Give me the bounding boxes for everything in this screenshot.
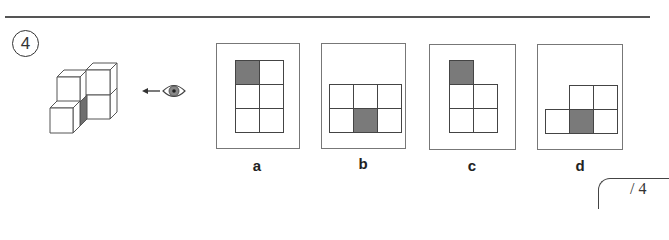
cell — [545, 109, 570, 134]
cell — [329, 84, 354, 109]
cell — [235, 108, 260, 133]
cell — [377, 84, 402, 109]
cube-right-top — [86, 63, 117, 95]
option-b-box[interactable] — [321, 43, 406, 149]
cell — [329, 108, 354, 133]
cell — [377, 108, 402, 133]
cell — [259, 60, 284, 85]
cell — [569, 109, 594, 134]
cube-front-left — [50, 101, 80, 133]
cell — [449, 108, 474, 133]
cell — [569, 85, 594, 110]
score-text: / 4 — [630, 180, 646, 198]
option-d-label[interactable]: d — [570, 157, 590, 174]
eye-icon — [163, 86, 185, 97]
option-c-label[interactable]: c — [462, 157, 482, 174]
cell — [259, 108, 284, 133]
cell — [235, 60, 260, 85]
cell — [593, 109, 618, 134]
arrow-left-icon — [142, 88, 160, 94]
cell — [593, 85, 618, 110]
cell — [449, 60, 474, 85]
cell — [449, 84, 474, 109]
option-c-box[interactable] — [429, 44, 516, 150]
cell — [473, 84, 498, 109]
option-b-label[interactable]: b — [353, 155, 373, 172]
option-d-box[interactable] — [537, 44, 623, 150]
option-a-label[interactable]: a — [247, 157, 267, 174]
cell — [473, 108, 498, 133]
option-a-box[interactable] — [216, 43, 300, 149]
cube-back-left — [57, 70, 87, 102]
cell — [353, 84, 378, 109]
cell — [235, 84, 260, 109]
cell — [353, 108, 378, 133]
cell — [259, 84, 284, 109]
